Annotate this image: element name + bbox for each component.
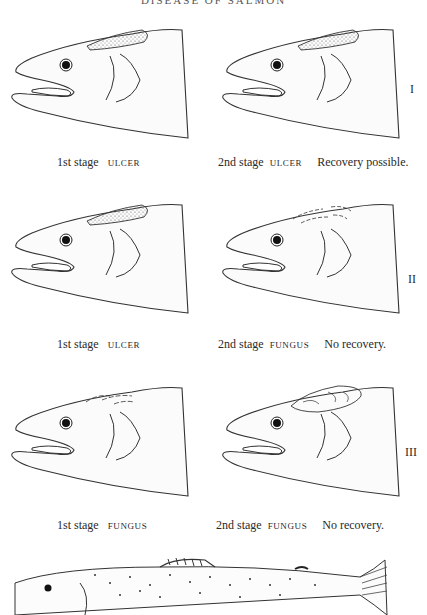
caption-row3-left: 1st stage FUNGUS xyxy=(57,518,147,533)
whole-fish-illustration xyxy=(0,555,427,615)
row-label-roman: I xyxy=(410,82,414,97)
fish-head-row1-stage1 xyxy=(2,20,192,140)
fish-head-row2-stage2 xyxy=(213,195,403,315)
fish-head-row2-stage1 xyxy=(2,195,192,315)
page-header: DISEASE OF SALMON xyxy=(0,0,427,6)
row-label-roman: III xyxy=(405,445,417,460)
caption-row1-left: 1st stage ULCER xyxy=(57,155,140,170)
caption-row1-right: 2nd stage ULCER Recovery possible. xyxy=(218,155,408,170)
fish-head-row3-stage2 xyxy=(213,378,403,498)
caption-row3-right: 2nd stage FUNGUS No recovery. xyxy=(216,518,384,533)
fish-head-row1-stage2 xyxy=(213,20,403,140)
row-label-roman: II xyxy=(408,272,416,287)
fish-head-row3-stage1 xyxy=(2,378,192,498)
caption-row2-right: 2nd stage FUNGUS No recovery. xyxy=(218,337,386,352)
caption-row2-left: 1st stage ULCER xyxy=(57,337,140,352)
